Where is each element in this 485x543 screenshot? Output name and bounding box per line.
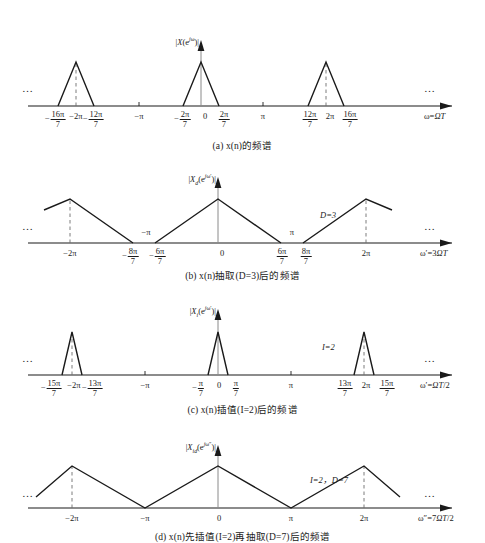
tick-label-zero: 0	[203, 112, 207, 121]
tick-label-pos-12pi-7: 12π7	[303, 110, 318, 129]
spectrum-triangle-left	[44, 199, 133, 243]
tick-label-neg-2pi: −2π	[63, 249, 76, 258]
tick-label-neg-16pi-7: −16π7	[51, 110, 66, 129]
tick-label-pos-2pi: 2π	[326, 112, 335, 121]
tick-label-pos-pi: π	[261, 112, 265, 121]
tick-label-pos-16pi-7: 16π7	[343, 110, 358, 129]
ellipsis-right: …	[424, 352, 436, 364]
x-axis-arrow	[440, 371, 452, 378]
tick-label-neg-2pi-7: −2π7	[180, 110, 191, 129]
tick-label-neg-pi: −π	[140, 514, 149, 523]
y-axis-label: |Xi(ejω′)|	[190, 305, 216, 318]
x-axis-arrow	[440, 504, 452, 511]
panel-d-caption: (d) x(n)先插值(I=2)再抽取(D=7)后的频谱	[0, 529, 485, 543]
y-axis-label: |X(ejω)|	[176, 36, 199, 47]
panel-b-caption: (b) x(n)抽取(D=3)后的频谱	[0, 268, 485, 282]
tick-label-neg-2pi: −2π	[67, 381, 80, 390]
tick-label-neg-6pi-7: −6π7	[155, 247, 166, 266]
param-label-D: D=3	[320, 210, 336, 220]
tick-label-neg-2pi: −2π	[65, 514, 78, 523]
tick-label-neg-pi: −π	[140, 381, 149, 390]
tick-label-pos-pi: π	[289, 381, 293, 390]
panel-a: … … |X(ejω)| ω=ΩT −16π7 −2π −12π7 −π −2π…	[0, 22, 485, 134]
tick-label-pos-6pi-7: 6π7	[277, 247, 288, 266]
ellipsis-right: …	[424, 487, 436, 499]
param-label-ID: I=2，D=7	[310, 473, 348, 485]
tick-label-neg-pi: −π	[134, 112, 143, 121]
tick-label-pos-8pi-7: 8π7	[301, 247, 312, 266]
tick-label-pos-pi: π	[290, 228, 294, 237]
x-axis-label: ω′=ΩT/2	[420, 380, 450, 390]
x-axis-label: ω′=3ΩT	[420, 248, 447, 258]
tick-label-neg-8pi-7: −8π7	[128, 247, 139, 266]
x-axis-arrow	[440, 102, 452, 109]
y-axis-label: |Xid(ejω″)|	[186, 441, 216, 454]
tick-label-pos-2pi: 2π	[362, 249, 371, 258]
panel-c: … … |Xi(ejω′)| ω′=ΩT/2 I=2 −15π7 −2π −13…	[0, 292, 485, 400]
ellipsis-left: …	[22, 352, 34, 364]
panel-b: … … |Xd(ejω′)| ω′=3ΩT D=3 −2π −8π7 −π −6…	[0, 158, 485, 268]
ellipsis-left: …	[22, 220, 34, 232]
spectrum-figure: … … |X(ejω)| ω=ΩT −16π7 −2π −12π7 −π −2π…	[0, 0, 485, 543]
tick-label-zero: 0	[220, 249, 224, 258]
panel-c-caption: (c) x(n)插值(I=2)后的频谱	[0, 402, 485, 416]
y-axis-label: |Xd(ejω′)|	[188, 173, 216, 186]
x-axis-label: ω″=7ΩT/2	[418, 513, 454, 523]
tick-label-pos-pi: π	[289, 514, 293, 523]
tick-label-zero: 0	[217, 381, 221, 390]
tick-label-pos-13pi-7: 13π7	[338, 379, 353, 398]
panel-a-caption: (a) x(n)的频谱	[0, 138, 485, 152]
tick-label-zero: 0	[217, 514, 221, 523]
tick-label-neg-12pi-7: −12π7	[89, 110, 104, 129]
tick-label-pos-2pi: 2π	[362, 381, 371, 390]
tick-label-pos-15pi-7: 15π7	[380, 379, 395, 398]
panel-d: … … |Xid(ejω″)| ω″=7ΩT/2 I=2，D=7 −2π −π …	[0, 425, 485, 528]
tick-label-pos-pi-7: π7	[233, 379, 239, 398]
ellipsis-right: …	[424, 220, 436, 232]
tick-label-neg-15pi-7: −15π7	[47, 379, 62, 398]
tick-label-neg-pi-7: −π7	[198, 379, 204, 398]
param-label-I: I=2	[322, 342, 335, 352]
tick-label-neg-2pi: −2π	[69, 112, 82, 121]
tick-label-pos-2pi-7: 2π7	[219, 110, 230, 129]
ellipsis-right: …	[424, 82, 436, 94]
tick-label-pos-2pi: 2π	[360, 514, 369, 523]
x-axis-label: ω=ΩT	[424, 111, 445, 121]
tick-label-neg-pi: −π	[141, 228, 150, 237]
ellipsis-left: …	[22, 82, 34, 94]
tick-label-neg-13pi-7: −13π7	[88, 379, 103, 398]
spectrum-triangle-right	[303, 199, 392, 243]
ellipsis-left: …	[22, 487, 34, 499]
x-axis-arrow	[440, 239, 452, 246]
